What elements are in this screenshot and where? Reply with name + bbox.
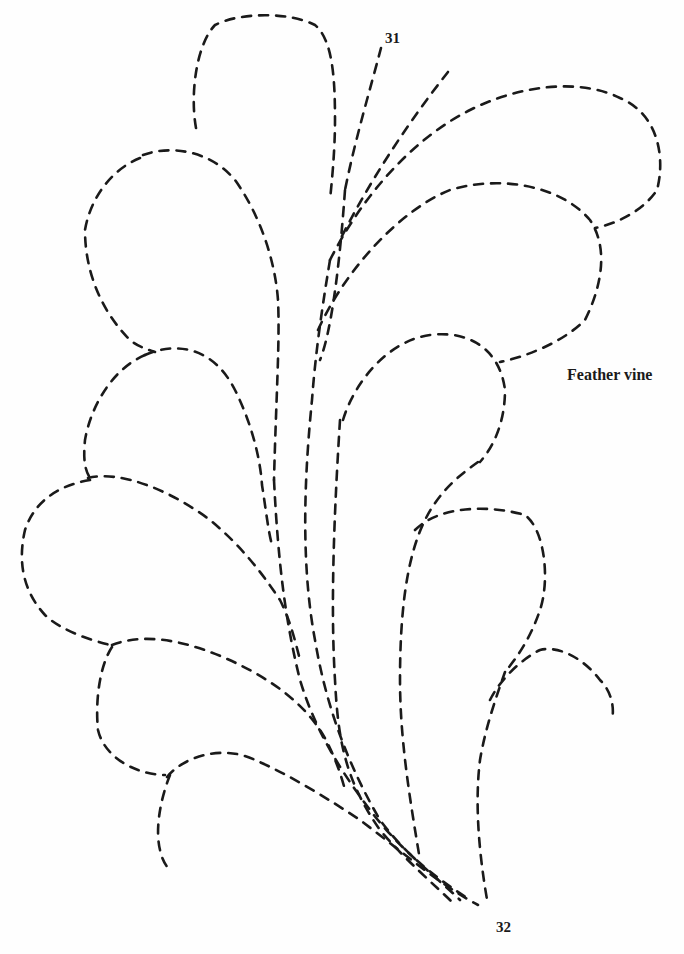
central-spine-1 [305, 260, 470, 900]
top-left-plume [194, 15, 335, 200]
start-marker-label: 31 [385, 30, 400, 47]
pattern-page: 31 Feather vine 32 [0, 0, 684, 954]
spine-top-1 [345, 48, 381, 190]
left-plume-2-top [143, 150, 279, 480]
central-spine-3 [274, 480, 460, 900]
central-spine-2 [320, 190, 345, 360]
left-plume-5 [97, 647, 165, 775]
left-plume-4 [22, 480, 110, 645]
end-marker-label: 32 [496, 919, 511, 936]
feather-vine-drawing [0, 0, 684, 954]
pattern-title: Feather vine [567, 366, 652, 384]
left-plume-3-top [145, 348, 272, 545]
central-spine-4 [333, 420, 455, 905]
bottom-left-curl [158, 775, 170, 870]
small-curl-right [490, 649, 613, 720]
left-plume-5-top [112, 639, 345, 790]
lower-right-plume-2-stem [478, 672, 505, 905]
left-plume-3 [84, 355, 145, 478]
lower-right-plume-inner [400, 462, 478, 860]
upper-right-plume [330, 86, 660, 260]
left-plume-4-top [88, 476, 300, 660]
left-plume-2 [85, 158, 155, 352]
lower-right-plume-2 [415, 509, 545, 672]
lower-right-plume [343, 334, 505, 462]
